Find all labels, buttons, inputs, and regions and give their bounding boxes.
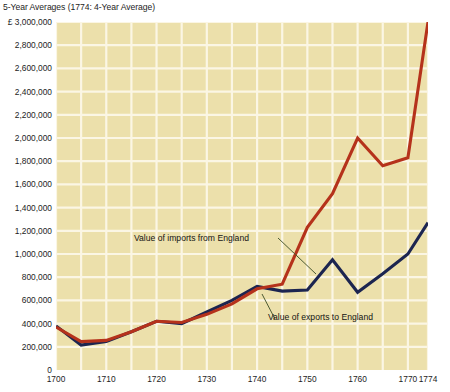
y-axis-tick-label: 2,800,000 [15,41,52,50]
y-axis-tick-label: 1,200,000 [15,226,52,235]
x-axis-tick-label: 1770 [399,374,418,384]
y-axis-tick-label: 2,000,000 [15,134,52,143]
y-axis-tick-label: 200,000 [22,342,52,351]
y-axis-tick-label: 1,800,000 [15,157,52,166]
y-axis-tick-label: £ 3,000,000 [8,18,52,27]
y-axis-tick-label: 600,000 [22,296,52,305]
x-axis-tick-label: 1760 [348,374,367,384]
trade-line-chart: 5-Year Averages (1774: 4-Year Average) £… [0,0,450,392]
x-axis-tick-label: 1710 [97,374,116,384]
x-axis-tick-label: 1720 [147,374,166,384]
y-axis-tick-label: 2,200,000 [15,110,52,119]
chart-title: 5-Year Averages (1774: 4-Year Average) [3,2,155,12]
x-axis-tick-label: 1700 [47,374,66,384]
y-axis-tick-label: 800,000 [22,273,52,282]
annotation-leader-line [278,238,316,274]
y-axis-tick-label: 2,400,000 [15,87,52,96]
y-axis-tick-label: 1,600,000 [15,180,52,189]
y-axis-tick-label: 400,000 [22,319,52,328]
y-axis-labels: £ 3,000,0002,800,0002,600,0002,400,0002,… [0,22,54,370]
imports-series-label: Value of imports from England [134,233,249,243]
y-axis-tick-label: 1,400,000 [15,203,52,212]
y-axis-tick-label: 2,600,000 [15,64,52,73]
x-axis-tick-label: 1774 [419,374,438,384]
y-axis-tick-label: 1,000,000 [15,250,52,259]
x-axis-labels: 170017101720173017401750176017701774 [0,372,450,392]
exports-series-label: Value of exports to England [268,312,373,322]
x-axis-tick-label: 1740 [248,374,267,384]
x-axis-tick-label: 1730 [197,374,216,384]
x-axis-tick-label: 1750 [298,374,317,384]
